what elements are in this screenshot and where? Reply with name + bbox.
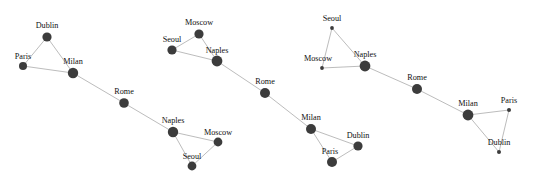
graph-node-label: Milan (301, 113, 321, 122)
graph-edge (468, 110, 509, 115)
graph-nodes-1 (19, 32, 222, 170)
graph-node-label: Paris (501, 96, 517, 105)
graph-labels-2: MoscowSeoulNaplesRomeMilanDublinParis (163, 18, 370, 156)
graph-labels-3: SeoulMoscowNaplesRomeMilanParisDublin (304, 14, 517, 147)
graph-node-label: Naples (354, 50, 377, 59)
graph-node[interactable] (327, 157, 337, 167)
graph-node[interactable] (320, 66, 324, 70)
graph-node[interactable] (168, 127, 178, 137)
graph-node-label: Paris (322, 147, 338, 156)
graph-node[interactable] (497, 150, 501, 154)
graph-node[interactable] (68, 68, 78, 78)
graph-node[interactable] (330, 26, 334, 30)
graph-edge (47, 37, 73, 73)
graph-node-label: Seoul (183, 152, 202, 161)
graph-figure: DublinParisMilanRomeNaplesMoscowSeoulMos… (0, 0, 536, 181)
graph-node[interactable] (353, 141, 362, 150)
graph-node-label: Milan (63, 57, 83, 66)
graph-node[interactable] (360, 61, 371, 72)
graph-node[interactable] (306, 124, 316, 134)
graph-edge (332, 28, 365, 66)
graph-edge (265, 93, 311, 129)
graph-node[interactable] (194, 29, 203, 38)
graph-node-label: Seoul (163, 35, 182, 44)
graph-node-label: Rome (255, 77, 275, 86)
graph-node-label: Milan (458, 99, 478, 108)
graph-node-label: Rome (407, 73, 427, 82)
graph-node[interactable] (260, 88, 270, 98)
graph-node[interactable] (119, 98, 129, 108)
graph-node[interactable] (214, 138, 223, 147)
graph-node[interactable] (19, 62, 27, 70)
graph-edge (322, 66, 365, 68)
graph-node-label: Naples (162, 116, 185, 125)
graph-node-label: Moscow (185, 18, 213, 27)
graph-canvas: DublinParisMilanRomeNaplesMoscowSeoulMos… (0, 0, 536, 181)
graph-node-label: Dublin (36, 21, 59, 30)
graph-node[interactable] (463, 110, 474, 121)
graph-labels-1: DublinParisMilanRomeNaplesMoscowSeoul (15, 21, 232, 160)
graph-node[interactable] (412, 84, 422, 94)
graph-node-label: Moscow (304, 54, 332, 63)
graph-edge (23, 66, 73, 73)
graph-node-label: Seoul (323, 14, 342, 23)
graph-node[interactable] (188, 162, 197, 171)
graph-node-label: Naples (206, 46, 229, 55)
labels-layer: DublinParisMilanRomeNaplesMoscowSeoulMos… (15, 14, 517, 161)
graph-node-label: Rome (114, 87, 134, 96)
nodes-layer (19, 26, 511, 170)
graph-node[interactable] (167, 45, 176, 54)
graph-edge (311, 129, 332, 162)
graph-node[interactable] (42, 32, 51, 41)
graph-edge (173, 132, 192, 166)
graph-node[interactable] (507, 108, 511, 112)
graph-node-label: Dublin (347, 131, 370, 140)
graph-node-label: Dublin (488, 138, 511, 147)
graph-node-label: Paris (15, 52, 31, 61)
graph-node-label: Moscow (204, 128, 232, 137)
graph-node[interactable] (212, 56, 223, 67)
